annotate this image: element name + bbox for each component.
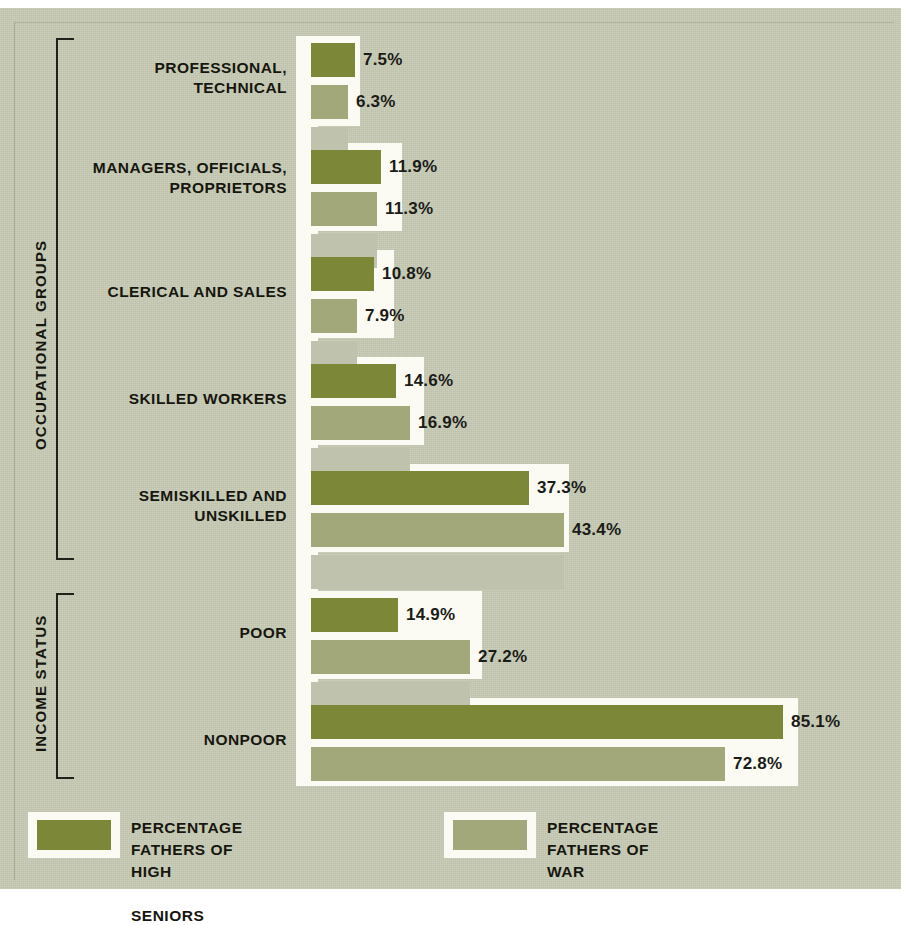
value-dark-managers: 11.9%	[389, 150, 437, 184]
bar-dark-clerical	[311, 257, 374, 291]
value-dark-semiskilled: 37.3%	[537, 471, 586, 505]
bar-light-clerical	[311, 299, 357, 333]
bar-dark-skilled	[311, 364, 396, 398]
section-title-occupational-groups: OCCUPATIONAL GROUPS	[32, 240, 49, 450]
value-light-poor: 27.2%	[478, 640, 527, 674]
category-label-managers-officials-proprietors: MANAGERS, OFFICIALS, PROPRIETORS	[0, 158, 287, 198]
bar-dark-nonpoor	[311, 705, 783, 739]
value-dark-nonpoor: 85.1%	[791, 705, 840, 739]
bar-light-skilled	[311, 406, 410, 440]
value-dark-clerical: 10.8%	[382, 257, 431, 291]
light-green-swatch	[453, 820, 527, 850]
dark-green-swatch	[37, 820, 111, 850]
category-label-professional-technical: PROFESSIONAL, TECHNICAL	[0, 58, 287, 98]
value-dark-professional-technical: 7.5%	[363, 43, 403, 77]
bar-light-managers	[311, 192, 377, 226]
value-light-clerical: 7.9%	[365, 299, 405, 333]
bracket-occupational-groups	[56, 38, 74, 560]
bar-dark-poor	[311, 598, 398, 632]
bar-dark-managers	[311, 150, 381, 184]
value-light-professional-technical: 6.3%	[356, 85, 396, 119]
value-dark-poor: 14.9%	[406, 598, 455, 632]
bar-light-professional-technical	[311, 85, 348, 119]
bar-dark-professional-technical	[311, 43, 355, 77]
legend-swatch-frame-light	[444, 812, 536, 858]
bar-light-semiskilled	[311, 513, 564, 547]
value-light-managers: 11.3%	[385, 192, 433, 226]
value-light-skilled: 16.9%	[418, 406, 467, 440]
section-title-income-status: INCOME STATUS	[32, 614, 49, 752]
paper-bottom-edge	[0, 889, 901, 905]
value-light-nonpoor: 72.8%	[733, 747, 782, 781]
legend-label-high-school-seniors: PERCENTAGE FATHERS OF HIGH SCHOOL SENIOR…	[131, 817, 243, 925]
bar-dark-semiskilled	[311, 471, 529, 505]
bracket-income-status	[56, 593, 74, 779]
row-spacer-5	[311, 555, 564, 589]
paper-top-edge	[0, 0, 901, 8]
value-light-semiskilled: 43.4%	[572, 513, 621, 547]
bar-light-poor	[311, 640, 470, 674]
legend-swatch-frame-dark	[28, 812, 120, 858]
value-dark-skilled: 14.6%	[404, 364, 453, 398]
bar-light-nonpoor	[311, 747, 725, 781]
category-label-semiskilled-and-unskilled: SEMISKILLED AND UNSKILLED	[0, 486, 287, 526]
